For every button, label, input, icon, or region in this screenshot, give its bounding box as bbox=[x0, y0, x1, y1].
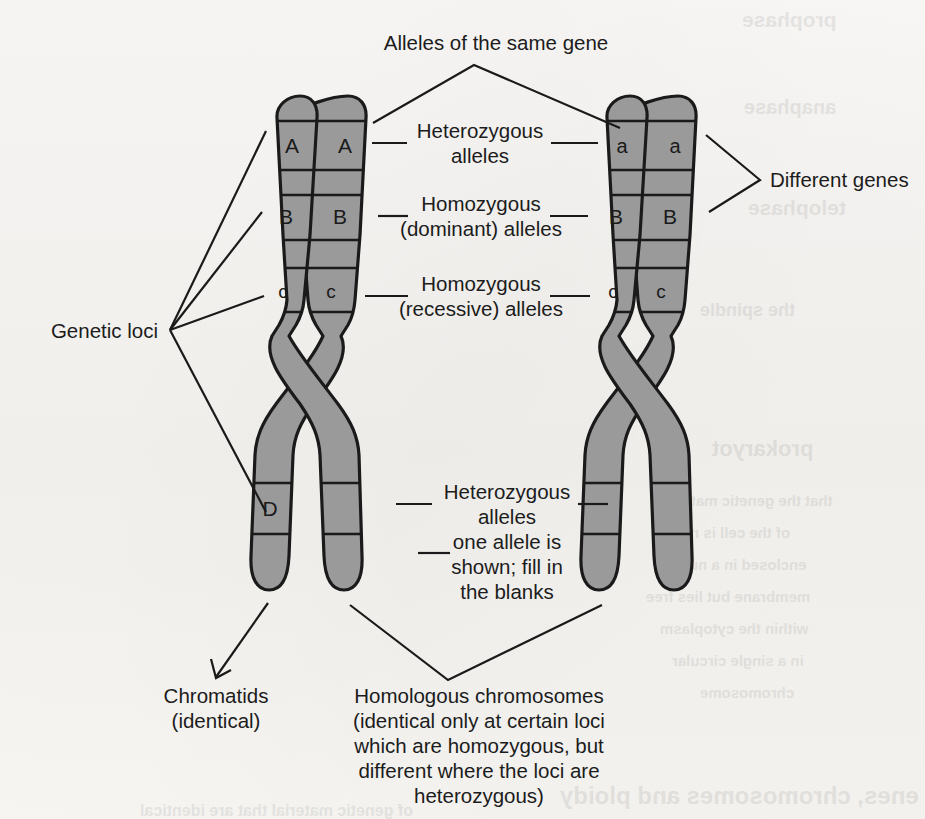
allele-letter: A bbox=[338, 134, 352, 157]
label-line: Homozygous bbox=[396, 271, 566, 296]
label-line: (recessive) alleles bbox=[396, 296, 566, 321]
label-line: which are homozygous, but bbox=[314, 733, 644, 758]
label-line: alleles bbox=[411, 143, 549, 168]
allele-letter: B bbox=[609, 205, 623, 228]
allele-letter: A bbox=[285, 134, 299, 157]
allele-letter: B bbox=[333, 205, 347, 228]
label-line: Heterozygous bbox=[411, 118, 549, 143]
leader-chromatids bbox=[216, 603, 268, 677]
label-line: different where the loci are bbox=[314, 758, 644, 783]
label-line: Heterozygous bbox=[434, 479, 580, 504]
allele-letter: B bbox=[279, 205, 293, 228]
allele-letter: c bbox=[278, 281, 288, 302]
label-line: (identical) bbox=[130, 708, 302, 733]
label-line: shown; fill in bbox=[434, 554, 580, 579]
allele-letter: c bbox=[656, 281, 666, 302]
label-heterozygous-alleles-top: Heterozygous alleles bbox=[411, 118, 549, 168]
leader-genetic-loci-d bbox=[170, 330, 266, 512]
label-homozygous-recessive-alleles: Homozygous (recessive) alleles bbox=[396, 271, 566, 321]
label-line: Homozygous bbox=[396, 191, 566, 216]
label-line: (identical only at certain loci bbox=[314, 708, 644, 733]
label-chromatids: Chromatids (identical) bbox=[130, 683, 302, 733]
allele-letter: a bbox=[616, 135, 628, 157]
label-homozygous-dominant-alleles: Homozygous (dominant) alleles bbox=[396, 191, 566, 241]
leader-different-genes bbox=[706, 135, 760, 212]
allele-letter: c bbox=[326, 281, 336, 302]
allele-letter: a bbox=[669, 135, 681, 157]
label-heterozygous-alleles-bottom: Heterozygous alleles one allele is shown… bbox=[434, 479, 580, 604]
left-chromosome: A B c D A B c bbox=[243, 96, 378, 590]
label-line: Chromatids bbox=[130, 683, 302, 708]
label-line: one allele is bbox=[434, 529, 580, 554]
label-homologous-chromosomes: Homologous chromosomes (identical only a… bbox=[314, 683, 644, 808]
right-chromosome: a B c a B c bbox=[573, 96, 708, 590]
label-alleles-of-same-gene: Alleles of the same gene bbox=[366, 30, 626, 55]
label-genetic-loci: Genetic loci bbox=[0, 318, 158, 343]
leader-homologous-chromosomes bbox=[350, 605, 602, 680]
label-line: (dominant) alleles bbox=[396, 216, 566, 241]
allele-letter: B bbox=[663, 205, 677, 228]
diagram-page: prophaseanaphasetelophasethe spindleprok… bbox=[0, 0, 925, 819]
label-line: the blanks bbox=[434, 579, 580, 604]
label-line: heterozygous) bbox=[314, 783, 644, 808]
label-line: Homologous chromosomes bbox=[314, 683, 644, 708]
label-different-genes: Different genes bbox=[770, 167, 909, 192]
allele-letter: c bbox=[608, 281, 618, 302]
label-line: alleles bbox=[434, 504, 580, 529]
